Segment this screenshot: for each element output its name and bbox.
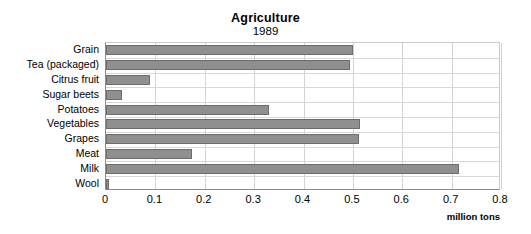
bar [106,149,192,159]
y-axis-tick-label: Citrus fruit [0,73,99,85]
x-axis-title: million tons [380,211,500,222]
chart-title: Agriculture [0,11,531,25]
bar-row [106,58,499,73]
bar [106,164,459,174]
x-axis-tick-label: 0.7 [431,193,471,206]
y-axis-tick-label: Milk [0,162,99,174]
y-axis-tick-label: Potatoes [0,103,99,115]
y-axis-tick-label: Meat [0,147,99,159]
bar-row [106,117,499,132]
bar-row [106,73,499,88]
bar [106,75,150,85]
bar-row [106,87,499,102]
x-axis-tick-label: 0.6 [381,193,421,206]
bar [106,45,353,55]
x-axis-tick-label: 0.5 [332,193,372,206]
x-axis-tick-label: 0.2 [184,193,224,206]
x-axis-tick-label: 0.8 [480,193,520,206]
y-axis-tick-label: Wool [0,177,99,189]
y-axis-tick-label: Vegetables [0,117,99,129]
bar-row [106,161,499,176]
bar-row [106,43,499,58]
y-axis-tick-label: Sugar beets [0,88,99,100]
gridline-vertical [501,43,502,189]
plot-area [105,42,500,190]
x-axis-tick-label: 0.1 [134,193,174,206]
bar [106,134,359,144]
x-axis-tick-label: 0.3 [233,193,273,206]
agriculture-bar-chart: Agriculture 1989 GrainTea (packaged)Citr… [0,0,531,234]
y-axis-tick-labels: GrainTea (packaged)Citrus fruitSugar bee… [0,42,102,190]
y-axis-tick-label: Grain [0,43,99,55]
x-axis-tick-label: 0.4 [283,193,323,206]
bar [106,119,360,129]
bar-row [106,147,499,162]
y-axis-tick-label: Tea (packaged) [0,58,99,70]
x-axis-tick-label: 0 [85,193,125,206]
y-axis-tick-label: Grapes [0,132,99,144]
bar [106,60,350,70]
bar [106,90,122,100]
bar-row [106,102,499,117]
bar [106,105,269,115]
x-axis-tick-labels: 00.10.20.30.40.50.60.70.8 [0,193,531,209]
chart-subtitle: 1989 [0,25,531,38]
bar-row [106,132,499,147]
bar [106,179,109,189]
bar-row [106,176,499,191]
